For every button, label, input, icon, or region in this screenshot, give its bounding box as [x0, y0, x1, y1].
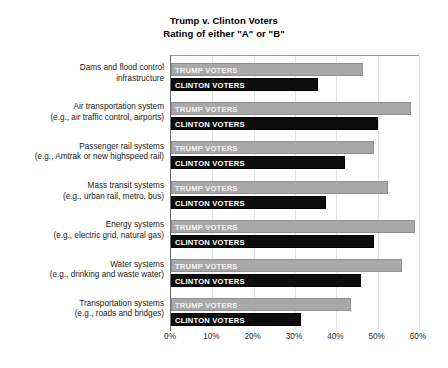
bar-row-group: TRUMP VOTERSCLINTON VOTERS: [171, 220, 419, 248]
chart-title: Trump v. Clinton Voters Rating of either…: [0, 14, 448, 40]
bar-trump: TRUMP VOTERS: [171, 63, 363, 76]
bar-series-label: CLINTON VOTERS: [175, 197, 245, 210]
bar-series-label: TRUMP VOTERS: [175, 64, 238, 77]
bar-series-label: CLINTON VOTERS: [175, 118, 245, 131]
bar-series-label: TRUMP VOTERS: [175, 142, 238, 155]
x-tick-label: 30%: [286, 332, 302, 341]
bar-row-group: TRUMP VOTERSCLINTON VOTERS: [171, 259, 419, 287]
category-label-line: Transportation systems: [18, 299, 164, 310]
bar-series-label: TRUMP VOTERS: [175, 182, 238, 195]
bar-row-group: TRUMP VOTERSCLINTON VOTERS: [171, 181, 419, 209]
bar-clinton: CLINTON VOTERS: [171, 235, 374, 248]
bar-clinton: CLINTON VOTERS: [171, 274, 361, 287]
bar-series-label: CLINTON VOTERS: [175, 236, 245, 249]
bar-clinton: CLINTON VOTERS: [171, 78, 318, 91]
category-label-line: (e.g., Amtrak or new highspeed rail): [18, 152, 164, 163]
category-label-line: Dams and flood control: [18, 63, 164, 74]
bar-series-label: TRUMP VOTERS: [175, 221, 238, 234]
bar-trump: TRUMP VOTERS: [171, 220, 415, 233]
bar-series-label: CLINTON VOTERS: [175, 275, 245, 288]
category-label: Dams and flood controlinfrastructure: [18, 63, 164, 84]
bar-series-label: CLINTON VOTERS: [175, 157, 245, 170]
chart-title-line-2: Rating of either "A" or "B": [0, 27, 448, 40]
plot-area: TRUMP VOTERSCLINTON VOTERSTRUMP VOTERSCL…: [170, 55, 419, 331]
category-axis-labels: Dams and flood controlinfrastructureAir …: [18, 55, 164, 330]
category-label-line: (e.g., air traffic control, airports): [18, 113, 164, 124]
bar-series-label: TRUMP VOTERS: [175, 299, 238, 312]
bar-clinton: CLINTON VOTERS: [171, 196, 326, 209]
category-label-line: (e.g., electric grid, natural gas): [18, 231, 164, 242]
category-label-line: infrastructure: [18, 74, 164, 85]
bar-trump: TRUMP VOTERS: [171, 259, 402, 272]
x-tick-label: 20%: [244, 332, 260, 341]
bar-clinton: CLINTON VOTERS: [171, 313, 301, 326]
gridline-60: [419, 56, 420, 331]
bar-trump: TRUMP VOTERS: [171, 298, 351, 311]
category-label-line: Passenger rail systems: [18, 142, 164, 153]
x-tick-label: 60%: [410, 332, 426, 341]
bar-series-label: CLINTON VOTERS: [175, 314, 245, 327]
bar-row-group: TRUMP VOTERSCLINTON VOTERS: [171, 63, 419, 91]
bar-series-label: TRUMP VOTERS: [175, 103, 238, 116]
bar-chart-figure: Trump v. Clinton Voters Rating of either…: [0, 0, 448, 368]
category-label-line: Energy systems: [18, 220, 164, 231]
x-tick-label: 50%: [368, 332, 384, 341]
category-label-line: (e.g., roads and bridges): [18, 309, 164, 320]
bar-row-group: TRUMP VOTERSCLINTON VOTERS: [171, 141, 419, 169]
bar-trump: TRUMP VOTERS: [171, 141, 374, 154]
category-label: Mass transit systems(e.g., urban rail, m…: [18, 181, 164, 202]
category-label: Energy systems(e.g., electric grid, natu…: [18, 220, 164, 241]
bar-row-group: TRUMP VOTERSCLINTON VOTERS: [171, 298, 419, 326]
bar-clinton: CLINTON VOTERS: [171, 156, 345, 169]
bar-clinton: CLINTON VOTERS: [171, 117, 378, 130]
category-label-line: (e.g., urban rail, metro, bus): [18, 192, 164, 203]
category-label: Passenger rail systems(e.g., Amtrak or n…: [18, 142, 164, 163]
category-label-line: Air transportation system: [18, 102, 164, 113]
x-axis-tick-labels: 0%10%20%30%40%50%60%: [170, 332, 418, 348]
bar-row-group: TRUMP VOTERSCLINTON VOTERS: [171, 102, 419, 130]
chart-title-line-1: Trump v. Clinton Voters: [0, 14, 448, 27]
x-tick-label: 10%: [203, 332, 219, 341]
bar-series-label: TRUMP VOTERS: [175, 260, 238, 273]
category-label: Transportation systems(e.g., roads and b…: [18, 299, 164, 320]
bar-rows: TRUMP VOTERSCLINTON VOTERSTRUMP VOTERSCL…: [171, 56, 419, 331]
category-label-line: Water systems: [18, 260, 164, 271]
bar-trump: TRUMP VOTERS: [171, 102, 411, 115]
category-label-line: (e.g., drinking and waste water): [18, 270, 164, 281]
bar-trump: TRUMP VOTERS: [171, 181, 388, 194]
x-tick-label: 40%: [327, 332, 343, 341]
x-tick-label: 0%: [164, 332, 176, 341]
category-label: Air transportation system(e.g., air traf…: [18, 102, 164, 123]
category-label-line: Mass transit systems: [18, 181, 164, 192]
bar-series-label: CLINTON VOTERS: [175, 79, 245, 92]
category-label: Water systems(e.g., drinking and waste w…: [18, 260, 164, 281]
